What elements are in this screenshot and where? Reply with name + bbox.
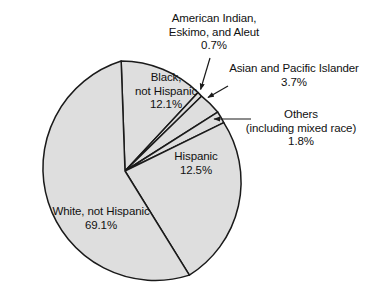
label-hispanic-line1: Hispanic xyxy=(174,150,217,162)
label-black-not-hispanic: Black, not Hispanic 12.1% xyxy=(118,71,214,112)
label-asian-pacific-islander-value: 3.7% xyxy=(218,76,370,90)
label-others-value: 1.8% xyxy=(232,135,370,149)
label-black-not-hispanic-line2: not Hispanic xyxy=(118,85,214,99)
label-american-indian: American Indian, Eskimo, and Aleut 0.7% xyxy=(148,12,280,53)
label-asian-pacific-islander-line1: Asian and Pacific Islander xyxy=(229,62,359,74)
label-others-line2: (including mixed race) xyxy=(232,122,370,136)
label-white-not-hispanic: White, not Hispanic 69.1% xyxy=(38,205,164,232)
label-white-not-hispanic-value: 69.1% xyxy=(38,219,164,233)
label-black-not-hispanic-value: 12.1% xyxy=(118,98,214,112)
label-american-indian-line2: Eskimo, and Aleut xyxy=(148,26,280,40)
pie-chart-figure: American Indian, Eskimo, and Aleut 0.7% … xyxy=(0,0,372,299)
label-others: Others (including mixed race) 1.8% xyxy=(232,108,370,149)
label-asian-pacific-islander: Asian and Pacific Islander 3.7% xyxy=(218,62,370,89)
label-white-not-hispanic-line1: White, not Hispanic xyxy=(52,205,149,217)
label-others-line1: Others xyxy=(284,108,318,120)
label-american-indian-line1: American Indian, xyxy=(172,12,257,24)
label-black-not-hispanic-line1: Black, xyxy=(151,71,182,83)
label-american-indian-value: 0.7% xyxy=(148,39,280,53)
label-hispanic: Hispanic 12.5% xyxy=(153,150,239,177)
label-hispanic-value: 12.5% xyxy=(153,164,239,178)
